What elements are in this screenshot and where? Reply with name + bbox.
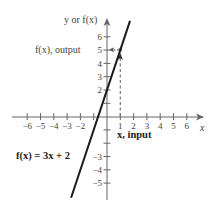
x-axis-label: x bbox=[199, 122, 205, 133]
y-tick-label: −4 bbox=[92, 165, 102, 175]
x-tick-label: −2 bbox=[76, 121, 86, 131]
x-tick-label: −6 bbox=[22, 121, 32, 131]
x-tick-label: 6 bbox=[185, 121, 190, 131]
y-tick-label: 2 bbox=[98, 85, 103, 95]
x-tick-label: 5 bbox=[171, 121, 176, 131]
x-tick-label: −4 bbox=[49, 121, 59, 131]
function-label: f(x) = 3x + 2 bbox=[16, 150, 70, 162]
x-tick-label: 4 bbox=[158, 121, 163, 131]
y-ticks: 65432−3−4−5 bbox=[92, 32, 110, 188]
y-tick-label: 4 bbox=[98, 59, 103, 69]
y-tick-label: 3 bbox=[98, 72, 103, 82]
output-arrow-icon bbox=[109, 47, 114, 52]
x-tick-label: −5 bbox=[36, 121, 46, 131]
y-tick-label: 5 bbox=[98, 45, 103, 55]
y-axis-label: y or f(x) bbox=[64, 14, 97, 26]
y-tick-label: −5 bbox=[92, 178, 102, 188]
y-tick-label: 6 bbox=[98, 32, 103, 42]
x-ticks: −6−5−4−3−2123456 bbox=[22, 113, 189, 131]
x-tick-label: −3 bbox=[62, 121, 72, 131]
function-graph: −6−5−4−3−2123456 65432−3−4−5 y or f(x) f… bbox=[0, 0, 214, 206]
y-tick-label: −3 bbox=[92, 152, 102, 162]
input-label: x, input bbox=[117, 129, 152, 140]
output-label: f(x), output bbox=[35, 44, 81, 56]
